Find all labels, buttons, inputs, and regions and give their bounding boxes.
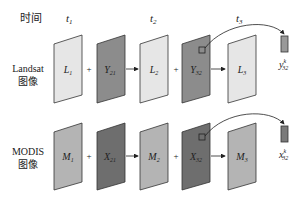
time-t3: t3 bbox=[236, 12, 243, 26]
landsat-label-cn: 图像 bbox=[18, 76, 38, 87]
time-t2: t2 bbox=[150, 12, 157, 26]
plus-sign: + bbox=[86, 64, 91, 74]
panel-Y32 bbox=[182, 35, 210, 103]
label-x32k: xk32 bbox=[278, 148, 288, 161]
panel-Y21 bbox=[97, 35, 125, 103]
diagram-canvas: 时间 t1 t2 t3 Landsat 图像 MODIS 图像 L1 + Y21… bbox=[0, 0, 299, 203]
plus-sign: + bbox=[173, 151, 178, 161]
modis-label: MODIS bbox=[12, 146, 44, 157]
landsat-row: L1 + Y21 L2 + Y32 L3 yk32 bbox=[54, 25, 288, 103]
landsat-label: Landsat bbox=[12, 63, 44, 74]
plus-sign: + bbox=[86, 151, 91, 161]
modis-row: M1 + X21 M2 + X32 M3 xk32 bbox=[54, 114, 288, 190]
label-y32k: yk32 bbox=[278, 58, 288, 71]
time-t1: t1 bbox=[66, 12, 73, 26]
modis-label-cn: 图像 bbox=[18, 159, 38, 170]
pixel-output-y32k bbox=[281, 36, 288, 52]
time-label: 时间 bbox=[20, 12, 42, 24]
plus-sign: + bbox=[173, 64, 178, 74]
pixel-output-x32k bbox=[281, 126, 288, 142]
